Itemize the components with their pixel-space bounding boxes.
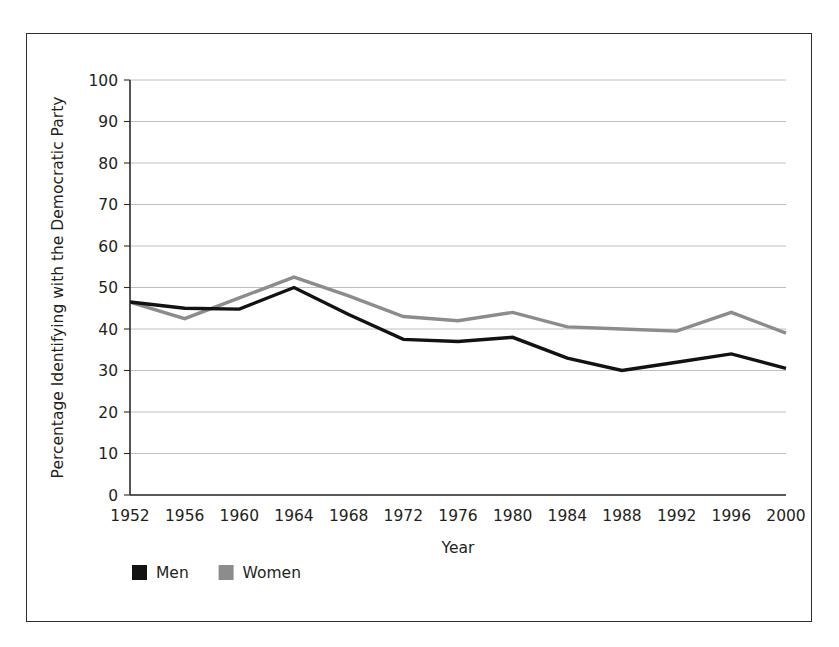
xtick-label-1960: 1960 — [220, 507, 259, 525]
xtick-label-1972: 1972 — [384, 507, 423, 525]
ytick-label-30: 30 — [98, 362, 118, 380]
xtick-label-1952: 1952 — [110, 507, 149, 525]
ytick-label-20: 20 — [98, 404, 118, 422]
xtick-label-1996: 1996 — [712, 507, 751, 525]
legend-swatch-men — [132, 565, 147, 580]
ytick-label-90: 90 — [98, 113, 118, 131]
legend-label-women: Women — [243, 564, 301, 582]
xtick-label-1956: 1956 — [165, 507, 204, 525]
xtick-label-1968: 1968 — [329, 507, 368, 525]
y-axis-title: Percentage Identifying with the Democrat… — [49, 97, 67, 479]
legend-swatch-women — [219, 565, 234, 580]
series-line-women — [130, 277, 786, 333]
xtick-label-1964: 1964 — [274, 507, 313, 525]
ytick-label-80: 80 — [98, 155, 118, 173]
ytick-label-10: 10 — [98, 445, 118, 463]
xtick-label-1988: 1988 — [602, 507, 641, 525]
ytick-label-60: 60 — [98, 238, 118, 256]
x-axis-title: Year — [441, 539, 475, 557]
ytick-label-100: 100 — [88, 72, 118, 90]
ytick-label-70: 70 — [98, 196, 118, 214]
xtick-label-2000: 2000 — [766, 507, 805, 525]
xtick-label-1992: 1992 — [657, 507, 696, 525]
ytick-label-50: 50 — [98, 279, 118, 297]
ytick-label-0: 0 — [108, 487, 118, 505]
xtick-label-1976: 1976 — [438, 507, 477, 525]
chart-figure-frame: 0102030405060708090100195219561960196419… — [26, 33, 812, 622]
legend-label-men: Men — [156, 564, 189, 582]
line-chart: 0102030405060708090100195219561960196419… — [27, 34, 811, 621]
xtick-label-1980: 1980 — [493, 507, 532, 525]
ytick-label-40: 40 — [98, 321, 118, 339]
xtick-label-1984: 1984 — [548, 507, 587, 525]
